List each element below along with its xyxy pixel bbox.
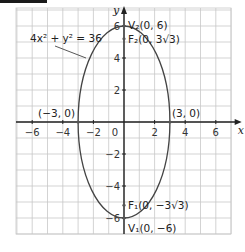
x-tick-label: −2 bbox=[86, 127, 101, 138]
point-f2 bbox=[122, 37, 125, 40]
y-tick-label: 4 bbox=[114, 53, 120, 64]
point-label-v2: V₂(0, 6) bbox=[128, 19, 168, 31]
point-label-v1: V₁(0, −6) bbox=[128, 222, 176, 234]
y-axis-label: y bbox=[112, 4, 120, 17]
point-f1 bbox=[122, 204, 125, 207]
x-tick-label: 6 bbox=[213, 127, 219, 138]
point-label-right-vertex: (3, 0) bbox=[172, 107, 200, 119]
x-axis-label: x bbox=[238, 124, 245, 137]
point-v2 bbox=[122, 24, 125, 27]
x-tick-label: 2 bbox=[151, 127, 157, 138]
point-label-f2: F₂(0, 3√3) bbox=[128, 33, 180, 45]
x-tick-label: −6 bbox=[25, 127, 40, 138]
point-label-left-vertex: (−3, 0) bbox=[38, 107, 75, 119]
x-tick-label: 0 bbox=[112, 127, 118, 138]
equation-pointer-line bbox=[55, 46, 86, 58]
equation-label: 4x² + y² = 36 bbox=[30, 32, 102, 44]
y-tick-label: 2 bbox=[114, 85, 120, 96]
y-tick-label: −2 bbox=[105, 149, 120, 160]
x-tick-label: 4 bbox=[182, 127, 188, 138]
point-left-vertex bbox=[77, 120, 80, 123]
y-tick-label: −4 bbox=[105, 181, 120, 192]
ellipse-chart: xy −6−4−20246−6−4−2246 V₂(0, 6)F₂(0, 3√3… bbox=[0, 0, 245, 252]
x-tick-label: −4 bbox=[55, 127, 70, 138]
point-right-vertex bbox=[168, 120, 171, 123]
point-label-f1: F₁(0, −3√3) bbox=[128, 199, 189, 211]
point-v1 bbox=[122, 216, 125, 219]
